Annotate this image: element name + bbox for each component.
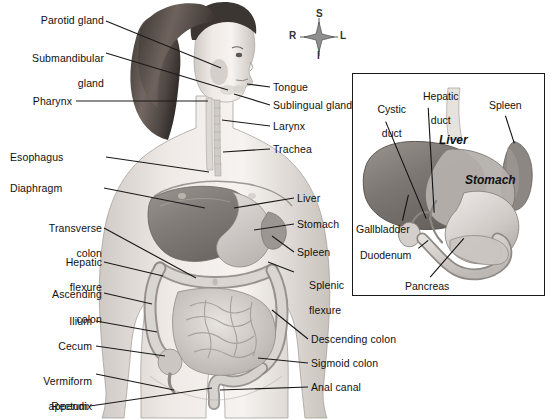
inset-label-stomach: Stomach bbox=[465, 173, 516, 187]
compass-superior-label: S bbox=[316, 8, 323, 19]
compass-inferior-label: I bbox=[317, 50, 320, 61]
label-line-2: duct bbox=[382, 127, 402, 139]
label-diaphragm: Diaphragm bbox=[10, 182, 106, 195]
leader-sublingual-gland bbox=[234, 94, 270, 105]
inset-label-duodenum: Duodenum bbox=[360, 249, 411, 261]
inset-label-pancreas: Pancreas bbox=[405, 280, 449, 292]
label-ilium: Ilium bbox=[10, 315, 92, 328]
inset-label-spleen: Spleen bbox=[489, 99, 522, 111]
label-line-2: gland bbox=[78, 77, 104, 89]
label-line-1: Transverse bbox=[49, 222, 102, 234]
label-parotid-gland: Parotid gland bbox=[12, 14, 104, 27]
label-anal-canal: Anal canal bbox=[311, 381, 361, 394]
label-cecum: Cecum bbox=[10, 340, 92, 353]
leader-sigmoid-colon bbox=[258, 358, 308, 363]
label-submandibular-gland: Submandibular gland bbox=[12, 39, 104, 102]
label-sublingual-gland: Sublingual gland bbox=[273, 99, 352, 112]
inset-label-hepatic-duct: Hepatic duct bbox=[405, 78, 459, 138]
label-esophagus: Esophagus bbox=[10, 151, 106, 164]
leader-stomach bbox=[254, 224, 294, 230]
label-line-1: Vermiform bbox=[43, 375, 92, 387]
label-line-1: Hepatic bbox=[66, 256, 102, 268]
leader-tongue bbox=[247, 84, 270, 87]
compass-right-label: R bbox=[289, 30, 296, 41]
label-line-1: Splenic bbox=[309, 279, 344, 291]
leader-liver bbox=[234, 198, 294, 208]
label-tongue: Tongue bbox=[273, 81, 308, 94]
label-sigmoid-colon: Sigmoid colon bbox=[311, 357, 378, 370]
leader-splenic-flexure bbox=[268, 262, 294, 272]
leader-parotid-gland bbox=[106, 21, 221, 68]
label-stomach: Stomach bbox=[297, 218, 339, 231]
leader-rectum bbox=[90, 388, 212, 406]
label-descending-colon: Descending colon bbox=[311, 333, 396, 346]
leader-submandibular-gland bbox=[106, 53, 228, 90]
label-line-2: flexure bbox=[309, 304, 341, 316]
leader-spleen bbox=[272, 236, 294, 252]
leader-spleen-inset bbox=[505, 116, 514, 144]
label-line-1: Hepatic bbox=[423, 90, 459, 102]
leader-diaphragm bbox=[104, 188, 205, 208]
label-splenic-flexure: Splenic flexure bbox=[297, 266, 344, 329]
label-larynx: Larynx bbox=[273, 120, 305, 133]
leader-larynx bbox=[222, 120, 270, 126]
leader-hepatic-flexure bbox=[104, 262, 163, 276]
anatomy-figure: Parotid gland Submandibular gland Pharyn… bbox=[0, 0, 554, 420]
label-line-2: duct bbox=[431, 114, 451, 126]
inset-label-gallbladder: Gallbladder bbox=[356, 223, 410, 235]
leader-esophagus bbox=[106, 157, 209, 172]
label-pharynx: Pharynx bbox=[12, 95, 72, 108]
label-rectum: Rectum bbox=[10, 400, 88, 413]
leader-cecum bbox=[96, 346, 165, 356]
leader-anal-canal bbox=[220, 387, 308, 390]
label-trachea: Trachea bbox=[273, 143, 312, 156]
leader-transverse-colon bbox=[104, 228, 196, 278]
leader-vermiform-appendix bbox=[96, 374, 174, 390]
label-line-1: Ascending bbox=[52, 288, 102, 300]
compass-left-label: L bbox=[340, 30, 346, 41]
label-ascending-colon: Ascending colon bbox=[8, 275, 102, 338]
label-liver: Liver bbox=[297, 192, 320, 205]
orientation-compass: S I R L bbox=[288, 10, 350, 66]
label-line-1: Submandibular bbox=[32, 52, 104, 64]
leader-trachea bbox=[223, 149, 270, 152]
label-line-1: Cystic bbox=[377, 103, 406, 115]
label-spleen: Spleen bbox=[297, 246, 330, 259]
leader-ascending-colon bbox=[104, 293, 152, 304]
inset-panel: Liver Stomach Cystic duct Hepatic duct S… bbox=[352, 73, 545, 296]
leader-ilium bbox=[96, 321, 157, 332]
inset-label-cystic-duct: Cystic duct bbox=[357, 91, 409, 151]
